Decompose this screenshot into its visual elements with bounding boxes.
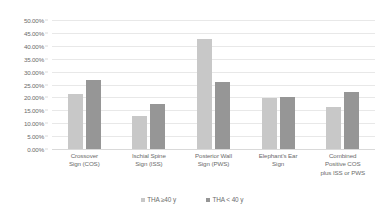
y-axis-tick-mark bbox=[45, 58, 48, 59]
bar[interactable] bbox=[280, 97, 295, 149]
y-axis-tick-label: 5.00% bbox=[27, 133, 44, 140]
x-axis-category-label-line: plus ISS or PWS bbox=[311, 169, 374, 177]
x-axis-category-label: CrossoverSign (COS) bbox=[52, 152, 117, 177]
y-axis-tick-label: 15.00% bbox=[24, 107, 44, 114]
legend-swatch-icon bbox=[206, 198, 210, 202]
plot-area bbox=[52, 20, 375, 149]
bar[interactable] bbox=[68, 94, 83, 149]
y-axis-tick-label: 30.00% bbox=[24, 68, 44, 75]
bar-group bbox=[117, 20, 182, 149]
legend-swatch-icon bbox=[141, 198, 145, 202]
bar-groups bbox=[52, 20, 375, 149]
y-axis-tick-mark bbox=[45, 97, 48, 98]
bar[interactable] bbox=[86, 80, 101, 149]
chart-legend: THA ≥40 yTHA < 40 y bbox=[0, 196, 384, 203]
x-axis-category-label-line: Elephant's Ear bbox=[247, 152, 310, 160]
x-axis-category-label-line: Sign bbox=[247, 160, 310, 168]
x-axis-category-label: Elephant's EarSign bbox=[246, 152, 311, 177]
y-axis-tick-mark bbox=[45, 71, 48, 72]
bar[interactable] bbox=[326, 107, 341, 149]
y-axis-tick-label: 50.00% bbox=[24, 17, 44, 24]
axis-baseline bbox=[52, 149, 375, 150]
x-axis-category-label-line: Crossover bbox=[53, 152, 116, 160]
y-axis: 0.00%5.00%10.00%15.00%20.00%25.00%30.00%… bbox=[0, 20, 48, 149]
x-axis-category-label-line: Combined bbox=[311, 152, 374, 160]
legend-label: THA < 40 y bbox=[213, 196, 244, 203]
bar[interactable] bbox=[344, 92, 359, 149]
bar-group bbox=[246, 20, 311, 149]
legend-item[interactable]: THA ≥40 y bbox=[141, 196, 176, 203]
y-axis-tick-label: 20.00% bbox=[24, 94, 44, 101]
y-axis-tick-mark bbox=[45, 84, 48, 85]
y-axis-tick-label: 35.00% bbox=[24, 55, 44, 62]
x-axis-category-label-line: Sign (ISS) bbox=[118, 160, 181, 168]
bar[interactable] bbox=[150, 104, 165, 149]
x-axis-category-label: CombinedPositive COSplus ISS or PWS bbox=[310, 152, 375, 177]
y-axis-tick-label: 45.00% bbox=[24, 29, 44, 36]
y-axis-tick-mark bbox=[45, 110, 48, 111]
x-axis-category-label-line: Posterior Wall bbox=[182, 152, 245, 160]
bar[interactable] bbox=[262, 98, 277, 149]
bar[interactable] bbox=[132, 116, 147, 149]
x-axis-category-label-line: Positive COS bbox=[311, 160, 374, 168]
y-axis-tick-mark bbox=[45, 20, 48, 21]
y-axis-tick-label: 40.00% bbox=[24, 42, 44, 49]
y-axis-tick-mark bbox=[45, 136, 48, 137]
bar-group bbox=[52, 20, 117, 149]
bar-group bbox=[181, 20, 246, 149]
bar[interactable] bbox=[215, 82, 230, 149]
y-axis-tick-label: 0.00% bbox=[27, 146, 44, 153]
x-axis-category-label: Posterior WallSign (PWS) bbox=[181, 152, 246, 177]
bar-chart: 0.00%5.00%10.00%15.00%20.00%25.00%30.00%… bbox=[0, 0, 384, 209]
x-axis-category-label-line: Sign (PWS) bbox=[182, 160, 245, 168]
y-axis-tick-mark bbox=[45, 32, 48, 33]
legend-label: THA ≥40 y bbox=[147, 196, 176, 203]
x-axis-category-label: Ischial SpineSign (ISS) bbox=[117, 152, 182, 177]
y-axis-tick-mark bbox=[45, 123, 48, 124]
y-axis-tick-mark bbox=[45, 45, 48, 46]
y-axis-tick-mark bbox=[45, 149, 48, 150]
y-axis-tick-label: 10.00% bbox=[24, 120, 44, 127]
y-axis-tick-label: 25.00% bbox=[24, 81, 44, 88]
bar[interactable] bbox=[197, 39, 212, 149]
legend-item[interactable]: THA < 40 y bbox=[206, 196, 243, 203]
x-axis-category-label-line: Sign (COS) bbox=[53, 160, 116, 168]
bar-group bbox=[310, 20, 375, 149]
x-axis-labels: CrossoverSign (COS)Ischial SpineSign (IS… bbox=[52, 152, 375, 177]
x-axis-category-label-line: Ischial Spine bbox=[118, 152, 181, 160]
